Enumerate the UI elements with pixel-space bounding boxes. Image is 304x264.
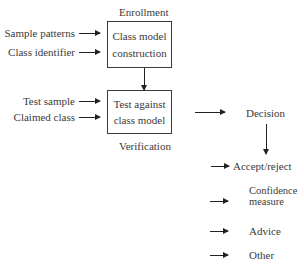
arrow-down-icon — [144, 68, 145, 90]
arrow-right-icon — [79, 101, 100, 102]
input-test-sample: Test sample — [0, 95, 75, 108]
arrow-right-icon — [210, 201, 228, 202]
output-other: Other — [249, 249, 274, 262]
enrollment-title: Enrollment — [119, 6, 169, 19]
verification-title: Verification — [119, 140, 171, 153]
arrow-right-icon — [210, 231, 228, 232]
decision-label: Decision — [246, 107, 285, 120]
box-line-1: Test against — [108, 98, 171, 111]
arrow-right-icon — [195, 112, 225, 113]
test-against-class-model-box: Test against class model — [107, 90, 172, 134]
box-line-2: construction — [108, 47, 171, 60]
box-line-1: Class model — [108, 30, 171, 43]
arrow-right-icon — [79, 33, 100, 34]
class-model-construction-box: Class model construction — [107, 21, 172, 68]
input-class-identifier: Class identifier — [0, 46, 75, 59]
arrow-right-icon — [79, 52, 100, 53]
arrow-right-icon — [210, 255, 228, 256]
output-confidence-measure-line2: measure — [249, 196, 284, 207]
output-confidence-measure-line1: Confidence — [249, 185, 297, 196]
box-line-2: class model — [108, 114, 171, 127]
arrow-down-icon — [266, 124, 267, 154]
input-sample-patterns: Sample patterns — [0, 27, 75, 40]
output-accept-reject: Accept/reject — [233, 160, 292, 173]
output-advice: Advice — [249, 225, 281, 238]
arrow-right-icon — [211, 166, 229, 167]
input-claimed-class: Claimed class — [0, 111, 75, 124]
arrow-right-icon — [79, 117, 100, 118]
